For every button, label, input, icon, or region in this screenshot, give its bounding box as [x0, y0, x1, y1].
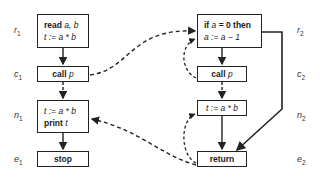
node-r1: read a, b t := a * b	[37, 14, 89, 48]
node-c1: call p	[37, 66, 89, 82]
node-e1: stop	[37, 151, 89, 167]
edge-c2-r2	[184, 39, 196, 78]
node-n2: t := a * b	[197, 100, 247, 116]
node-e2: return	[197, 151, 247, 167]
label-n2: n2	[297, 110, 306, 122]
label-c2: c2	[297, 69, 305, 81]
edge-r2-e2	[237, 32, 282, 150]
label-e1: e1	[14, 154, 23, 166]
node-c2: call p	[197, 66, 247, 82]
label-c1: c1	[14, 69, 22, 81]
label-n1: n1	[14, 110, 23, 122]
label-e2: e2	[297, 154, 306, 166]
label-r1: r1	[14, 25, 21, 37]
label-r2: r2	[297, 25, 304, 37]
edge-c1-r2	[90, 31, 195, 75]
edge-e2-n1	[92, 119, 196, 165]
node-n1: t := a * b print t	[37, 100, 89, 133]
node-r2: if a = 0 then a := a − 1	[197, 14, 262, 48]
edge-e2-n2	[184, 114, 196, 163]
